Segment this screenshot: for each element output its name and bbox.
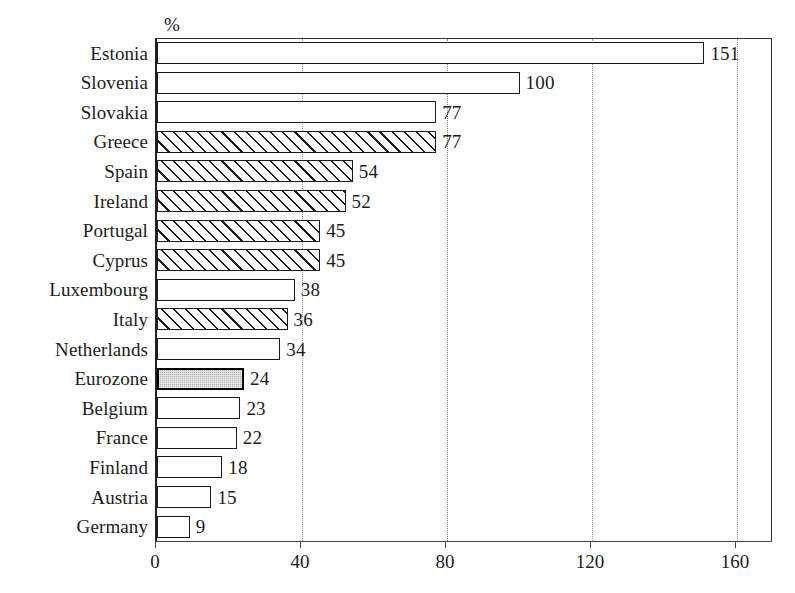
category-label-luxembourg: Luxembourg <box>5 280 155 299</box>
x-tick-label-0: 0 <box>150 552 160 572</box>
x-tick-label-160: 160 <box>721 552 750 572</box>
category-label-ireland: Ireland <box>5 192 155 211</box>
bar-belgium <box>157 397 240 419</box>
bar-italy <box>157 308 288 330</box>
category-label-finland: Finland <box>5 458 155 477</box>
value-label-slovakia: 77 <box>442 103 461 122</box>
category-label-greece: Greece <box>5 132 155 151</box>
category-label-slovenia: Slovenia <box>5 73 155 92</box>
x-tick-label-80: 80 <box>436 552 455 572</box>
value-label-austria: 15 <box>217 488 236 507</box>
bar-luxembourg <box>157 279 295 301</box>
value-label-cyprus: 45 <box>326 251 345 270</box>
category-label-eurozone: Eurozone <box>5 369 155 388</box>
bar-portugal <box>157 220 320 242</box>
bar-austria <box>157 486 211 508</box>
value-label-germany: 9 <box>196 517 206 536</box>
gridline-120 <box>592 39 593 541</box>
value-label-spain: 54 <box>359 162 378 181</box>
category-label-germany: Germany <box>5 517 155 536</box>
value-label-greece: 77 <box>442 132 461 151</box>
bar-cyprus <box>157 249 320 271</box>
value-label-portugal: 45 <box>326 221 345 240</box>
category-label-france: France <box>5 428 155 447</box>
x-tick-40 <box>300 542 301 548</box>
value-label-netherlands: 34 <box>286 340 305 359</box>
category-label-belgium: Belgium <box>5 399 155 418</box>
category-label-cyprus: Cyprus <box>5 251 155 270</box>
bar-ireland <box>157 190 346 212</box>
category-label-slovakia: Slovakia <box>5 103 155 122</box>
x-tick-80 <box>445 542 446 548</box>
value-label-ireland: 52 <box>352 192 371 211</box>
bar-eurozone <box>157 368 244 390</box>
bar-france <box>157 427 237 449</box>
value-label-italy: 36 <box>294 310 313 329</box>
value-label-france: 22 <box>243 428 262 447</box>
category-label-netherlands: Netherlands <box>5 340 155 359</box>
bar-finland <box>157 456 222 478</box>
bar-spain <box>157 160 353 182</box>
bar-slovenia <box>157 72 520 94</box>
value-label-finland: 18 <box>228 458 247 477</box>
x-tick-label-120: 120 <box>576 552 605 572</box>
bar-netherlands <box>157 338 280 360</box>
value-label-eurozone: 24 <box>250 369 269 388</box>
value-label-estonia: 151 <box>710 44 739 63</box>
gridline-160 <box>737 39 738 541</box>
category-label-austria: Austria <box>5 488 155 507</box>
category-label-spain: Spain <box>5 162 155 181</box>
x-tick-160 <box>735 542 736 548</box>
x-tick-120 <box>590 542 591 548</box>
bar-chart: % EstoniaSloveniaSlovakiaGreeceSpainIrel… <box>0 0 795 593</box>
x-tick-label-40: 40 <box>291 552 310 572</box>
bar-estonia <box>157 42 704 64</box>
bar-germany <box>157 516 190 538</box>
category-label-portugal: Portugal <box>5 221 155 240</box>
unit-label: % <box>164 14 180 36</box>
bar-slovakia <box>157 101 436 123</box>
value-label-slovenia: 100 <box>526 73 555 92</box>
value-label-belgium: 23 <box>246 399 265 418</box>
category-label-italy: Italy <box>5 310 155 329</box>
value-label-luxembourg: 38 <box>301 280 320 299</box>
x-tick-0 <box>155 542 156 548</box>
category-label-estonia: Estonia <box>5 44 155 63</box>
bar-greece <box>157 131 436 153</box>
